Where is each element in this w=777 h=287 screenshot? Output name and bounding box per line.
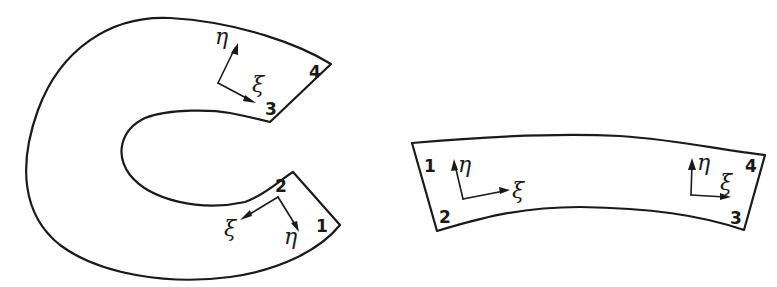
node-1-right: 1 (424, 156, 436, 176)
eta-label-strip-left: η (458, 152, 471, 177)
xi-label-left-bottom: ξ (224, 216, 238, 241)
mapped-strip-domain (412, 135, 765, 231)
left-top-axes (218, 43, 256, 103)
node-3-right: 3 (730, 208, 742, 228)
diagram-canvas: η ξ 4 3 2 1 ξ η 1 2 η ξ η ξ 4 3 (0, 0, 777, 287)
eta-label-left-bottom: η (284, 224, 297, 249)
node-2-left: 2 (275, 176, 287, 196)
eta-label-strip-right: η (697, 150, 710, 175)
node-1-left: 1 (316, 216, 328, 236)
node-3-left: 3 (265, 99, 277, 119)
xi-label-strip-left: ξ (512, 178, 526, 203)
node-2-right: 2 (439, 207, 451, 227)
strip-outline (412, 135, 765, 231)
node-4-right: 4 (745, 156, 757, 176)
eta-label-left-top: η (215, 24, 228, 49)
xi-label-left-top: ξ (252, 72, 266, 97)
node-4-left: 4 (309, 62, 321, 82)
xi-label-strip-right: ξ (720, 170, 734, 195)
